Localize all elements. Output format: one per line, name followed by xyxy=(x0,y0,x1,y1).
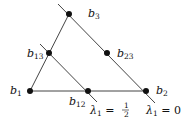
fraction-denominator: 2 xyxy=(124,110,129,119)
point-b1 xyxy=(27,88,33,94)
point-b23 xyxy=(104,50,110,56)
label-b3: b3 xyxy=(88,7,100,21)
label-b23: b23 xyxy=(117,47,134,61)
label-b1: b1 xyxy=(10,84,22,98)
label-b12: b12 xyxy=(69,95,86,109)
label-b2: b2 xyxy=(156,84,168,98)
point-b12 xyxy=(85,88,91,94)
label-b13: b13 xyxy=(27,47,44,61)
point-b13 xyxy=(46,50,52,56)
point-b3 xyxy=(66,11,72,17)
fraction-numerator: 1 xyxy=(124,101,129,110)
barycentric-triangle-diagram: b1 b2 b3 b12 b13 b23 λ1 = 1 2 λ1 = 0 xyxy=(0,0,188,121)
point-b2 xyxy=(143,88,149,94)
label-lambda1-half: λ1 = xyxy=(89,104,114,118)
label-lambda1-zero: λ1 = 0 xyxy=(145,104,181,118)
